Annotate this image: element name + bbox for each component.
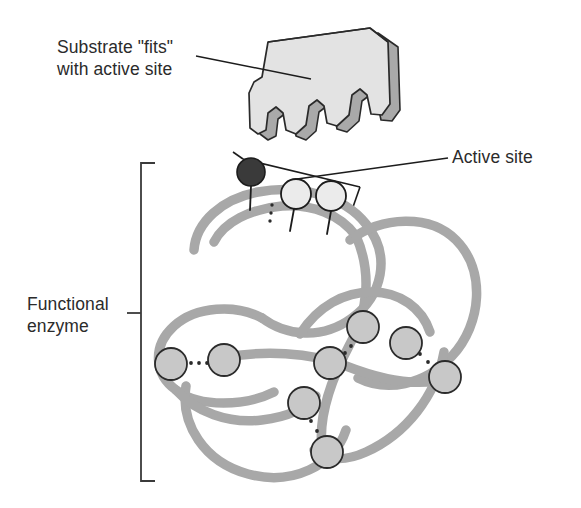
- residue-r6: [429, 361, 461, 393]
- residue-r4: [347, 311, 379, 343]
- residue-r1: [155, 348, 187, 380]
- residue-r5: [390, 327, 422, 359]
- residue-r2: [208, 344, 240, 376]
- label-active-site: Active site: [452, 146, 533, 168]
- substrate-block: [249, 28, 400, 140]
- residue-r7: [288, 387, 320, 419]
- label-substrate-fits: Substrate "fits" with active site: [57, 36, 173, 81]
- residue-pale-2: [316, 181, 346, 211]
- residue-pale-1: [281, 179, 311, 209]
- residue-r3: [314, 347, 346, 379]
- label-functional-enzyme: Functional enzyme: [27, 293, 109, 338]
- stalk-dark-r-group: [250, 186, 251, 210]
- residue-r8: [311, 436, 343, 468]
- residue-dark-r-group: [237, 158, 265, 186]
- leader-line-active-site: [297, 158, 448, 179]
- stalk-pale-residue-1: [290, 209, 294, 231]
- enzyme-active-site-figure: Substrate "fits" with active site Active…: [0, 0, 581, 508]
- polypeptide-chain: [158, 190, 476, 478]
- functional-enzyme-bracket: [127, 163, 155, 481]
- active-site-residues: [237, 158, 346, 211]
